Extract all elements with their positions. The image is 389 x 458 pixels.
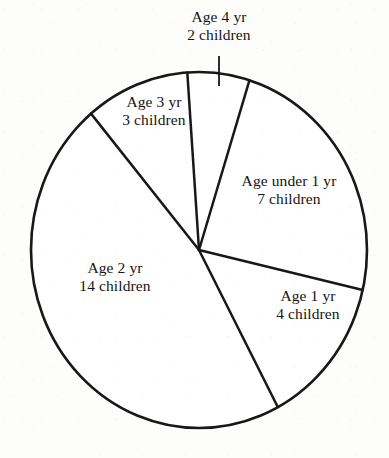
slice-label-age-1yr: Age 1 yr 4 children [243, 287, 373, 324]
slice-label-age-1yr-value: 4 children [243, 305, 373, 323]
slice-label-age-under-1yr-category: Age under 1 yr [214, 172, 364, 190]
slice-label-age-3yr-category: Age 3 yr [90, 93, 218, 111]
slice-label-age-under-1yr-value: 7 children [214, 190, 364, 208]
slice-label-age-3yr-value: 3 children [90, 111, 218, 129]
slice-label-age-4yr-value: 2 children [134, 26, 304, 44]
slice-label-age-2yr-category: Age 2 yr [40, 259, 190, 277]
slice-label-age-2yr-value: 14 children [40, 277, 190, 295]
slice-label-age-2yr: Age 2 yr 14 children [40, 259, 190, 296]
slice-label-age-under-1yr: Age under 1 yr 7 children [214, 172, 364, 209]
pie-chart: Age 4 yr 2 children Age 3 yr 3 children … [0, 0, 389, 458]
slice-label-age-4yr: Age 4 yr 2 children [134, 8, 304, 45]
slice-label-age-4yr-category: Age 4 yr [134, 8, 304, 26]
pie-chart-graphic [0, 0, 389, 458]
slice-label-age-3yr: Age 3 yr 3 children [90, 93, 218, 130]
slice-label-age-1yr-category: Age 1 yr [243, 287, 373, 305]
